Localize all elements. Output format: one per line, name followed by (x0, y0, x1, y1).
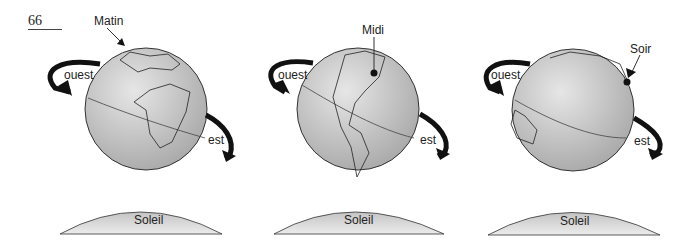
time-label-matin: Matin (94, 14, 123, 28)
panel-noon: Midi ouest est Soleil (271, 23, 450, 234)
west-label: ouest (278, 68, 308, 82)
sun-label: Soleil (560, 214, 589, 228)
time-label-midi: Midi (362, 23, 384, 37)
earth-globe (297, 48, 419, 170)
earth-globe (85, 48, 207, 170)
west-label: ouest (491, 68, 521, 82)
earth-rotation-diagram: Matin ouest est Soleil Midi ouest est So… (0, 0, 688, 250)
panel-morning: Matin ouest est Soleil (50, 14, 236, 234)
west-label: ouest (64, 68, 94, 82)
time-label-soir: Soir (630, 42, 651, 56)
east-label: est (634, 134, 651, 148)
location-dot (371, 70, 378, 77)
earth-globe (512, 49, 634, 171)
east-label: est (420, 133, 437, 147)
location-dot (624, 79, 631, 86)
east-label: est (208, 133, 225, 147)
sun-label: Soleil (344, 213, 373, 227)
sun-label: Soleil (134, 213, 163, 227)
panel-evening: Soir ouest est Soleil (486, 42, 663, 235)
